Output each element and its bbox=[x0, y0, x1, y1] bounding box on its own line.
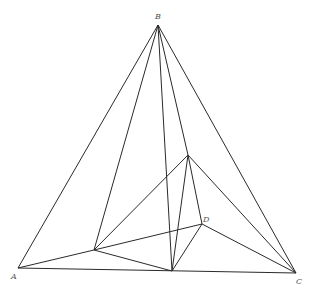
label-a: A bbox=[10, 272, 17, 281]
edge-ec bbox=[188, 155, 296, 273]
geometry-diagram: A B C D bbox=[0, 0, 315, 293]
label-d: D bbox=[202, 215, 210, 224]
edge-pe bbox=[94, 155, 188, 250]
edge-dq bbox=[172, 224, 202, 271]
edge-bc bbox=[158, 25, 296, 273]
label-b: B bbox=[154, 12, 161, 21]
edge-pb bbox=[94, 25, 158, 250]
edge-pd bbox=[94, 224, 202, 250]
label-c: C bbox=[296, 277, 302, 286]
edge-be bbox=[158, 25, 188, 155]
edge-eq bbox=[172, 155, 188, 271]
edge-ap bbox=[18, 250, 94, 268]
diagram-edges bbox=[18, 25, 296, 273]
edge-ab bbox=[18, 25, 158, 268]
edge-ac bbox=[18, 268, 296, 273]
edge-pq bbox=[94, 250, 172, 271]
edge-ed bbox=[188, 155, 202, 224]
